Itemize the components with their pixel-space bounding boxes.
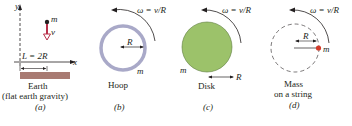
ground-surface — [20, 72, 70, 79]
mass-subtitle: on a string — [274, 89, 312, 99]
mass-label: m — [323, 44, 330, 54]
mass-point — [45, 20, 49, 24]
caption-a: (a) — [35, 102, 46, 112]
mass-dot — [316, 45, 321, 50]
earth-title: Earth — [28, 81, 48, 91]
caption-c: (c) — [203, 102, 213, 112]
caption-d: (d) — [289, 100, 300, 110]
mass-label: m — [51, 14, 58, 24]
radius-label: R — [303, 31, 309, 41]
mass-label: m — [180, 65, 187, 75]
velocity-arrowhead-icon — [44, 34, 51, 40]
length-label: L = 2R — [22, 51, 47, 61]
omega-arrowhead-icon — [201, 8, 207, 13]
omega-label: ω = v/R — [310, 5, 339, 15]
x-axis-label: x — [73, 57, 77, 67]
omega-label: ω = v/R — [222, 5, 251, 15]
radius-label: R — [236, 72, 242, 82]
earth-subtitle: (flat earth gravity) — [2, 91, 68, 101]
mass-label: m — [137, 66, 144, 76]
omega-arrowhead-icon — [111, 8, 117, 13]
mass-title: Mass — [284, 79, 303, 89]
velocity-label: v — [51, 27, 55, 37]
panel-c-disk — [182, 8, 241, 79]
radius-label: R — [127, 37, 133, 47]
disk-title: Disk — [198, 81, 215, 91]
omega-label: ω = v/R — [137, 5, 166, 15]
hoop-title: Hoop — [108, 80, 128, 90]
omega-arrowhead-icon — [289, 8, 295, 13]
panel-a-earth — [14, 4, 76, 79]
y-axis-label: y — [15, 1, 19, 11]
panel-d-mass-on-string — [271, 8, 329, 73]
caption-b: (b) — [114, 102, 125, 112]
disk-body — [182, 22, 232, 72]
